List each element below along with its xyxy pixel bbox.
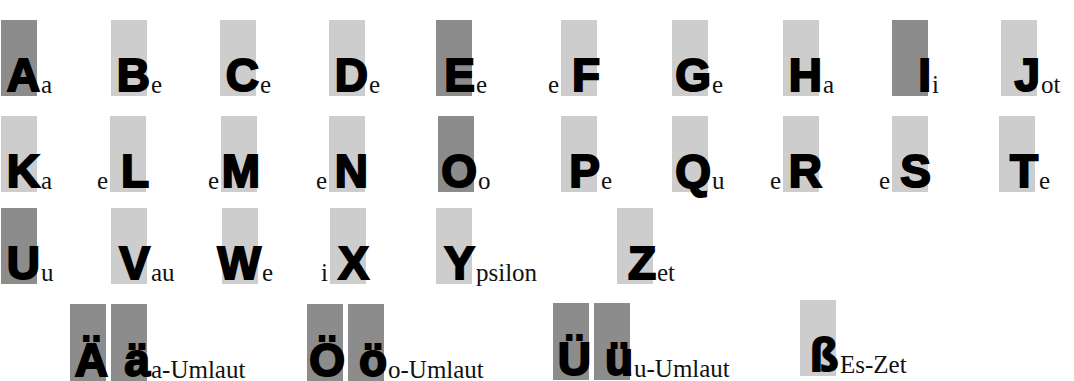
letter-box: H — [783, 20, 819, 96]
letter-box: G — [672, 20, 708, 96]
letter-name-suffix: e — [151, 72, 162, 97]
letter-box: I — [892, 20, 928, 96]
capital-letter: R — [789, 148, 821, 194]
umlaut-lowercase: ö — [359, 337, 386, 381]
letter-name-suffix: e — [262, 260, 273, 285]
capital-letter: Q — [675, 148, 710, 194]
letter-box: U — [1, 208, 37, 284]
capital-letter: O — [441, 148, 476, 194]
letter-name-suffix: a — [41, 168, 52, 193]
umlaut-capital: Ö — [309, 337, 344, 381]
letter-box: T — [999, 116, 1035, 192]
letter-name-suffix: e — [712, 72, 723, 97]
umlaut-name: u-Umlaut — [634, 356, 730, 381]
eszett-letter: ß — [810, 332, 837, 378]
umlaut-lowercase: ü — [605, 336, 632, 381]
letter-name-suffix: a — [823, 72, 834, 97]
letter-box: L — [110, 116, 146, 192]
capital-letter: X — [338, 240, 368, 286]
letter-name-suffix: a — [41, 72, 52, 97]
umlaut-upper-box: Ü — [553, 303, 589, 380]
capital-letter: F — [572, 52, 599, 98]
letter-name-prefix: e — [97, 168, 108, 193]
capital-letter: G — [675, 52, 710, 98]
letter-box: V — [111, 208, 147, 284]
letter-box: Y — [436, 208, 472, 284]
letter-name-suffix: e — [1039, 168, 1050, 193]
letter-name-suffix: e — [601, 168, 612, 193]
letter-box: Z — [617, 208, 653, 284]
capital-letter: A — [7, 52, 39, 98]
letter-box: B — [111, 20, 147, 96]
capital-letter: I — [918, 52, 930, 98]
capital-letter: H — [789, 52, 821, 98]
letter-box: Q — [672, 116, 708, 192]
capital-letter: E — [444, 52, 474, 98]
letter-name-prefix: i — [321, 260, 328, 285]
letter-name-prefix: e — [879, 168, 890, 193]
letter-name-suffix: i — [932, 72, 939, 97]
umlaut-upper-box: Ä — [70, 304, 106, 381]
capital-letter: T — [1010, 148, 1037, 194]
umlaut-lowercase: ä — [124, 337, 149, 381]
letter-box: K — [1, 116, 37, 192]
capital-letter: K — [7, 148, 39, 194]
letter-name-prefix: e — [208, 168, 219, 193]
eszett-name: Es-Zet — [840, 352, 907, 377]
letter-box: X — [330, 208, 366, 284]
letter-name-suffix: et — [657, 260, 675, 285]
letter-name-prefix: e — [316, 168, 327, 193]
capital-letter: J — [1014, 52, 1039, 98]
letter-name-suffix: o — [478, 168, 491, 193]
umlaut-lower-box: ü — [594, 303, 630, 380]
capital-letter: V — [119, 240, 149, 286]
letter-name-prefix: e — [770, 168, 781, 193]
capital-letter: N — [335, 148, 367, 194]
letter-box: S — [892, 116, 928, 192]
capital-letter: P — [569, 148, 599, 194]
letter-name-suffix: e — [476, 72, 487, 97]
letter-box: J — [1001, 20, 1037, 96]
letter-box: A — [1, 20, 37, 96]
letter-name-suffix: e — [369, 72, 380, 97]
capital-letter: C — [226, 52, 258, 98]
umlaut-capital: Ü — [558, 336, 590, 381]
umlaut-lower-box: ä — [111, 304, 147, 381]
capital-letter: L — [121, 148, 148, 194]
umlaut-lower-box: ö — [348, 304, 384, 381]
letter-box: O — [438, 116, 474, 192]
letter-box: W — [222, 208, 258, 284]
letter-name-suffix: u — [712, 168, 725, 193]
letter-box: M — [221, 116, 257, 192]
capital-letter: S — [900, 148, 930, 194]
umlaut-name: o-Umlaut — [388, 357, 484, 381]
umlaut-upper-box: Ö — [307, 304, 343, 381]
eszett-box: ß — [800, 300, 836, 376]
letter-name-suffix: e — [260, 72, 271, 97]
letter-box: F — [561, 20, 597, 96]
capital-letter: U — [7, 240, 39, 286]
letter-box: D — [329, 20, 365, 96]
capital-letter: Z — [628, 240, 655, 286]
letter-name-prefix: e — [548, 72, 559, 97]
letter-name-suffix: au — [151, 260, 175, 285]
capital-letter: D — [335, 52, 367, 98]
letter-box: E — [436, 20, 472, 96]
letter-box: N — [329, 116, 365, 192]
umlaut-capital: Ä — [75, 337, 107, 381]
capital-letter: M — [222, 148, 259, 194]
letter-name-suffix: psilon — [476, 260, 537, 285]
letter-box: C — [220, 20, 256, 96]
letter-box: P — [561, 116, 597, 192]
letter-name-suffix: u — [41, 260, 54, 285]
capital-letter: Y — [444, 240, 474, 286]
capital-letter: W — [218, 240, 260, 286]
umlaut-name: a-Umlaut — [151, 357, 245, 381]
capital-letter: B — [117, 52, 149, 98]
letter-box: R — [783, 116, 819, 192]
letter-name-suffix: ot — [1041, 72, 1060, 97]
